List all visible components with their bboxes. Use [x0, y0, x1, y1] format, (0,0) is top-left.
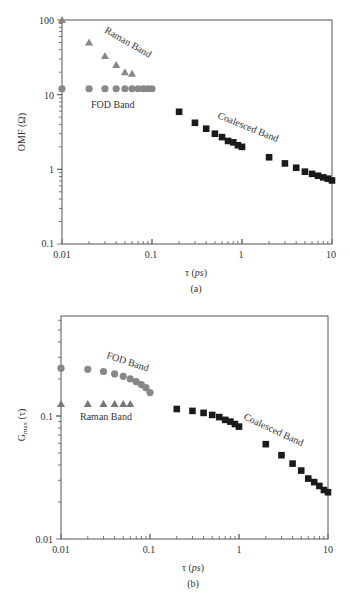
- data-point-fod-band: [113, 85, 120, 92]
- data-point-coalesced-band: [289, 460, 296, 467]
- y-axis-title-b: Gmax (τ): [16, 409, 29, 441]
- data-point-fod-band: [57, 365, 64, 372]
- x-tick-label: 0.1: [145, 249, 158, 260]
- data-point-coalesced-band: [305, 475, 312, 482]
- data-point-fod-band: [121, 85, 128, 92]
- annotation-raman-band-b: Raman Band: [80, 411, 132, 422]
- annotation-coalesced-band-b: Coalesced Band: [242, 411, 305, 448]
- caption-b: (b): [187, 578, 199, 590]
- figure: 0.01 0.1 1 10 0.1 1 10 100 τ (ps) (a) OM…: [0, 0, 350, 604]
- data-point-raman-band: [99, 400, 107, 407]
- x-axis-title-a: τ (ps): [185, 267, 207, 279]
- data-point-coalesced-band: [262, 441, 269, 448]
- x-axis-title-b: τ (ps): [182, 562, 204, 574]
- y-tick-label: 100: [39, 15, 54, 26]
- x-tick-labels-a: 0.01 0.1 1 10: [53, 249, 336, 260]
- data-point-coalesced-band: [329, 177, 336, 184]
- x-tick-label: 1: [237, 544, 242, 555]
- data-point-coalesced-band: [236, 423, 243, 430]
- x-tick-label: 10: [323, 544, 333, 555]
- data-point-fod-band: [85, 85, 92, 92]
- y-tick-label: 0.01: [36, 534, 54, 545]
- data-point-coalesced-band: [200, 410, 207, 417]
- data-point-coalesced-band: [278, 452, 285, 459]
- y-tick-label: 0.1: [41, 411, 54, 422]
- data-point-raman-band: [121, 68, 129, 75]
- annotation-raman-band-a: Raman Band: [103, 24, 153, 59]
- data-point-fod-band: [111, 370, 118, 377]
- data-point-fod-band: [58, 85, 65, 92]
- data-point-coalesced-band: [325, 489, 332, 496]
- data-point-fod-band: [120, 373, 127, 380]
- plot-frame-b: [61, 316, 328, 539]
- x-tick-label: 0.01: [52, 544, 70, 555]
- data-point-coalesced-band: [219, 134, 226, 141]
- chart-a: 0.01 0.1 1 10 0.1 1 10 100 τ (ps) (a) OM…: [16, 15, 336, 295]
- y-tick-labels-a: 0.1 1 10 100: [39, 15, 54, 249]
- data-point-raman-band: [85, 38, 93, 45]
- annotation-fod-band-b: FOD Band: [105, 349, 150, 373]
- data-point-raman-band: [112, 61, 120, 68]
- data-point-coalesced-band: [192, 119, 199, 126]
- data-point-coalesced-band: [189, 408, 196, 415]
- data-point-coalesced-band: [282, 160, 289, 167]
- data-point-coalesced-band: [302, 168, 309, 175]
- data-point-coalesced-band: [173, 406, 180, 413]
- y-tick-labels-b: 0.01 0.1: [36, 411, 54, 545]
- data-point-coalesced-band: [212, 130, 219, 137]
- y-tick-label: 1: [49, 164, 54, 175]
- x-tick-label: 0.01: [53, 249, 71, 260]
- x-tick-label: 1: [239, 249, 244, 260]
- data-point-coalesced-band: [266, 154, 273, 161]
- data-point-coalesced-band: [239, 144, 246, 151]
- caption-a: (a): [190, 283, 201, 295]
- data-point-raman-band: [111, 400, 119, 407]
- data-point-fod-band: [84, 366, 91, 373]
- axis-ticks-a: [57, 20, 332, 244]
- data-point-coalesced-band: [298, 467, 305, 474]
- data-point-coalesced-band: [209, 412, 216, 419]
- data-point-raman-band: [84, 400, 92, 407]
- data-point-coalesced-band: [176, 108, 183, 115]
- data-point-raman-band: [119, 400, 127, 407]
- data-point-fod-band: [100, 368, 107, 375]
- x-tick-labels-b: 0.01 0.1 1 10: [52, 544, 333, 555]
- x-tick-label: 0.1: [143, 544, 156, 555]
- data-point-coalesced-band: [216, 414, 223, 421]
- y-tick-label: 0.1: [42, 238, 55, 249]
- data-point-coalesced-band: [203, 125, 210, 132]
- annotation-fod-band-a: FOD Band: [91, 99, 135, 110]
- x-tick-label: 10: [326, 249, 336, 260]
- data-point-raman-band: [126, 400, 134, 407]
- plot-frame-a: [62, 20, 332, 244]
- data-point-raman-band: [128, 70, 136, 77]
- data-point-fod-band: [148, 85, 155, 92]
- chart-b: 0.01 0.1 1 10 0.01 0.1 τ (ps) (b) Gmax (…: [16, 316, 333, 590]
- data-point-coalesced-band: [309, 171, 316, 178]
- data-point-raman-band: [57, 400, 65, 407]
- y-tick-label: 10: [44, 90, 54, 101]
- data-point-coalesced-band: [293, 164, 300, 171]
- y-axis-title-a: OMF (Ω): [16, 113, 28, 151]
- data-point-fod-band: [101, 85, 108, 92]
- data-point-fod-band: [146, 389, 153, 396]
- data-point-raman-band: [101, 52, 109, 59]
